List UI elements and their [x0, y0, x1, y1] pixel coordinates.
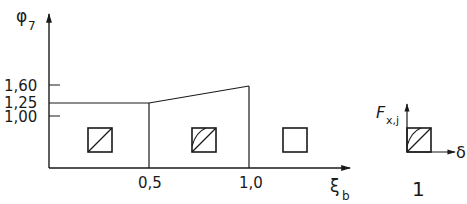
y-axis-symbol: φ [16, 6, 27, 26]
region-1-symbol-icon [88, 128, 112, 152]
region-2-symbol-icon [192, 128, 216, 152]
x-axis-subscript: b [342, 189, 350, 203]
x-tick-label: 0,5 [138, 174, 162, 192]
y-tick-label: 1,60 [4, 77, 37, 95]
x-axis-symbol: ξ [330, 176, 339, 196]
diagram-canvas: φ 7 ξ b 1,60 1,25 1,00 0,5 1,0 [0, 0, 467, 204]
legend-x-label: δ [456, 143, 466, 162]
legend-y-subscript: x,j [386, 114, 399, 127]
x-axis: ξ b [49, 168, 350, 203]
function-curve [49, 86, 249, 168]
y-axis-subscript: 7 [28, 19, 36, 33]
legend: F x,j δ 1 [376, 103, 466, 201]
y-tick-label: 1,00 [4, 108, 37, 126]
region-3-symbol-icon [283, 128, 307, 152]
x-tick-label: 1,0 [239, 174, 263, 192]
x-ticks: 0,5 1,0 [138, 174, 263, 192]
legend-y-symbol: F [376, 103, 386, 122]
y-ticks: 1,60 1,25 1,00 [4, 77, 60, 126]
legend-caption: 1 [412, 177, 425, 201]
